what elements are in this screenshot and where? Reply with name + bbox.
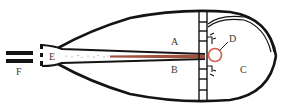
leader-line-d [220, 42, 228, 50]
funnel-upper-wall [42, 45, 205, 54]
tube-particles [65, 55, 108, 58]
diagram-canvas: A B C D E F [0, 0, 286, 112]
label-d: D [229, 34, 236, 44]
label-a: A [171, 37, 178, 47]
mouth-opening-e [40, 44, 43, 66]
label-c: C [240, 65, 247, 75]
funnel-lower-wall [42, 59, 205, 66]
circle-d [209, 49, 222, 62]
label-b: B [171, 65, 178, 75]
label-f: F [16, 67, 22, 77]
label-e: E [49, 52, 55, 62]
inner-membrane-inner [208, 19, 271, 52]
tube-contents [110, 55, 205, 59]
diagram-figure [0, 0, 286, 112]
bars-f [6, 51, 33, 63]
